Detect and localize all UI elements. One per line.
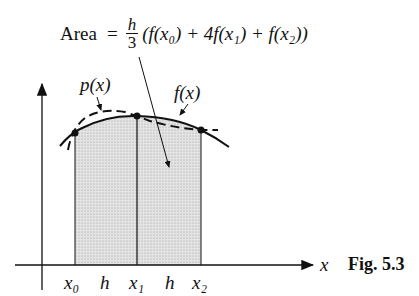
- node-x0: [72, 130, 79, 137]
- fraction-numerator: h: [126, 16, 139, 34]
- node-x2: [198, 127, 205, 134]
- formula-rhs: (f(x₀) + 4f(x₁) + f(x₂)): [142, 23, 308, 45]
- tick-x1: x₁: [129, 273, 144, 292]
- tick-h1: h: [100, 273, 110, 292]
- formula-lhs: Area: [60, 23, 97, 45]
- p-pointer: [97, 97, 101, 110]
- formula-eq: =: [107, 23, 118, 45]
- label-f: f(x): [174, 83, 200, 102]
- formula-fraction: h 3: [126, 16, 139, 53]
- figure-caption: Fig. 5.3: [348, 254, 405, 275]
- tick-x0: x₀: [64, 273, 79, 292]
- tick-x2: x₂: [192, 273, 207, 292]
- tick-h2: h: [165, 273, 175, 292]
- label-x-axis: x: [320, 255, 328, 274]
- label-p: p(x): [80, 75, 111, 94]
- f-pointer: [180, 104, 188, 115]
- fraction-denominator: 3: [128, 34, 137, 53]
- shaded-area: [75, 116, 201, 265]
- node-x1: [134, 113, 141, 120]
- area-formula: Area = h 3 (f(x₀) + 4f(x₁) + f(x₂)): [60, 16, 308, 53]
